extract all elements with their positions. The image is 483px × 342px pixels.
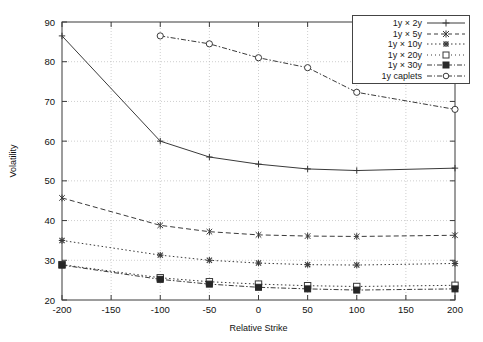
- legend-sample-1y-30y: [426, 60, 466, 70]
- legend-sample-1y-2y: [426, 18, 466, 28]
- legend-label: 1y × 2y: [393, 18, 426, 29]
- chart-legend: 1y × 2y 1y × 5y 1y × 10y: [352, 15, 470, 84]
- marker-filled-square: [452, 286, 458, 292]
- x-tick-label: -50: [203, 304, 217, 315]
- chart-figure: 2030405060708090-200-150-100-50050100150…: [0, 0, 483, 342]
- x-tick-label: -150: [102, 304, 121, 315]
- legend-item-1y-30y: 1y × 30y: [355, 60, 466, 71]
- legend-item-1y-5y: 1y × 5y: [355, 29, 466, 40]
- y-axis-label: Volatility: [8, 144, 18, 178]
- legend-sample-1y-10y: [426, 39, 466, 49]
- legend-sample-1y-caplets: [426, 71, 466, 81]
- marker-filled-square: [59, 262, 65, 268]
- y-tick-label: 90: [44, 17, 55, 28]
- legend-item-1y-10y: 1y × 10y: [355, 39, 466, 50]
- marker-open-circle: [452, 106, 458, 112]
- y-tick-label: 60: [44, 136, 55, 147]
- y-tick-label: 50: [44, 175, 55, 186]
- legend-label: 1y × 20y: [388, 50, 426, 61]
- marker-open-circle: [354, 89, 360, 95]
- legend-label: 1y × 30y: [388, 60, 426, 71]
- legend-label: 1y caplets: [381, 71, 426, 82]
- marker-filled-square: [256, 284, 262, 290]
- legend-sample-1y-5y: [426, 29, 466, 39]
- x-tick-label: 0: [256, 304, 261, 315]
- x-tick-label: -200: [52, 304, 71, 315]
- x-tick-label: 50: [302, 304, 313, 315]
- marker-filled-square: [354, 287, 360, 293]
- y-tick-label: 80: [44, 56, 55, 67]
- x-tick-label: -100: [151, 304, 170, 315]
- marker-open-circle: [157, 33, 163, 39]
- y-tick-label: 30: [44, 255, 55, 266]
- legend-item-1y-caplets: 1y caplets: [355, 71, 466, 82]
- x-tick-label: 200: [447, 304, 463, 315]
- x-tick-label: 100: [349, 304, 365, 315]
- marker-open-circle: [255, 55, 261, 61]
- marker-filled-square: [157, 276, 163, 282]
- legend-item-1y-20y: 1y × 20y: [355, 50, 466, 61]
- marker-open-circle: [305, 65, 311, 71]
- marker-filled-square: [206, 281, 212, 287]
- marker-open-circle: [206, 41, 212, 47]
- marker-filled-square: [305, 286, 311, 292]
- legend-sample-1y-20y: [426, 50, 466, 60]
- legend-label: 1y × 10y: [388, 39, 426, 50]
- x-axis-label: Relative Strike: [229, 323, 287, 333]
- y-tick-label: 70: [44, 96, 55, 107]
- x-tick-label: 150: [398, 304, 414, 315]
- legend-label: 1y × 5y: [393, 29, 426, 40]
- legend-item-1y-2y: 1y × 2y: [355, 18, 466, 29]
- y-tick-label: 40: [44, 215, 55, 226]
